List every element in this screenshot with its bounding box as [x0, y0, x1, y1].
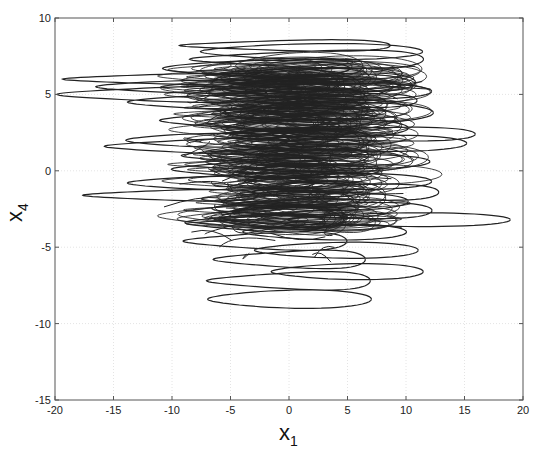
chart-canvas: -20-15-10-505101520 -15-10-50510 x1 x4: [0, 0, 540, 452]
y-tick-label: -15: [35, 394, 51, 406]
x-tick-label: 5: [344, 404, 350, 416]
x-tick-label: -5: [226, 404, 236, 416]
x-tick-label: 15: [458, 404, 470, 416]
y-tick-label: 5: [45, 88, 51, 100]
y-tick-label: -10: [35, 318, 51, 330]
y-tick-label: 10: [39, 12, 51, 24]
x-tick-label: -15: [106, 404, 122, 416]
y-tick-label: -5: [41, 241, 51, 253]
x-tick-label: 10: [400, 404, 412, 416]
x-tick-label: -10: [164, 404, 180, 416]
y-tick-label: 0: [45, 165, 51, 177]
x-tick-label: 20: [517, 404, 529, 416]
x-tick-label: 0: [286, 404, 292, 416]
figure: -20-15-10-505101520 -15-10-50510 x1 x4: [0, 0, 540, 452]
